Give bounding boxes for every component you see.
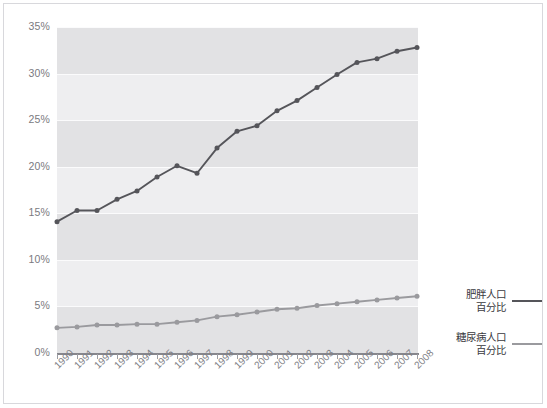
series-data-point [95, 208, 100, 213]
series-data-point [355, 299, 360, 304]
series-data-point [375, 56, 380, 61]
legend-label-line1: 肥胖人口 [466, 288, 506, 301]
legend-entry[interactable]: 糖尿病人口百分比 [430, 331, 542, 357]
series-data-point [355, 60, 360, 65]
series-data-point [55, 325, 60, 330]
series-data-point [115, 323, 120, 328]
series-data-point [175, 320, 180, 325]
series-line [57, 47, 417, 221]
series-data-point [275, 108, 280, 113]
series-data-point [415, 294, 420, 299]
series-data-point [335, 72, 340, 77]
legend-label: 糖尿病人口百分比 [456, 331, 506, 357]
series-data-point [255, 310, 260, 315]
series-data-point [155, 322, 160, 327]
series-data-point [135, 322, 140, 327]
series-data-point [95, 323, 100, 328]
chart-figure: 35%30%25%20%15%10%5%0% 19901991199219931… [0, 0, 547, 408]
series-data-point [175, 163, 180, 168]
legend-label-line2: 百分比 [456, 344, 506, 357]
series-data-point [255, 123, 260, 128]
series-line [57, 296, 417, 328]
series-data-point [115, 197, 120, 202]
series-data-point [55, 219, 60, 224]
legend-label-line2: 百分比 [466, 301, 506, 314]
legend-label-line1: 糖尿病人口 [456, 331, 506, 344]
series-data-point [315, 85, 320, 90]
series-data-point [395, 49, 400, 54]
series-data-point [235, 312, 240, 317]
legend-line-swatch [512, 343, 542, 345]
series-data-point [275, 307, 280, 312]
series-data-point [215, 146, 220, 151]
legend-line-swatch [512, 300, 542, 302]
series-data-point [415, 45, 420, 50]
series-data-point [135, 188, 140, 193]
series-data-point [195, 171, 200, 176]
series-data-point [215, 314, 220, 319]
series-data-point [155, 174, 160, 179]
series-data-point [335, 301, 340, 306]
series-data-point [295, 306, 300, 311]
series-data-point [295, 98, 300, 103]
legend-entry[interactable]: 肥胖人口百分比 [430, 288, 542, 314]
series-data-point [315, 303, 320, 308]
series-data-point [235, 129, 240, 134]
series-data-point [75, 208, 80, 213]
series-data-point [375, 297, 380, 302]
series-data-point [395, 296, 400, 301]
series-data-point [75, 324, 80, 329]
series-data-point [195, 318, 200, 323]
legend-label: 肥胖人口百分比 [466, 288, 506, 314]
chart-legend: 肥胖人口百分比糖尿病人口百分比 [430, 288, 542, 374]
